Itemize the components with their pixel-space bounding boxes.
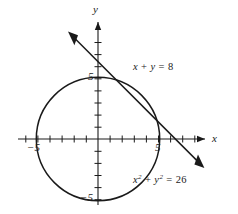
line-arrowhead-upper-left xyxy=(68,32,78,46)
circle-equation-label: x2 + y2 = 26 xyxy=(133,175,187,186)
circle-eq-y-exponent: 2 xyxy=(159,173,163,181)
line-eq-equals: = xyxy=(159,61,165,72)
x-axis-tick-label-positive-5: 5 xyxy=(155,142,161,153)
x-axis-tick-label-negative-5: −5 xyxy=(27,142,40,153)
line-eq-value: 8 xyxy=(168,61,174,72)
y-axis-tick-label-positive-5: 5 xyxy=(88,71,94,82)
x-axis-arrowhead xyxy=(197,136,205,142)
line-equation-label: x + y = 8 xyxy=(133,62,174,73)
y-axis-tick-label-negative-5: −5 xyxy=(80,192,93,203)
y-axis-label: y xyxy=(93,4,98,15)
line-eq-y: y xyxy=(150,61,155,72)
circle-eq-equals: = xyxy=(166,174,172,185)
math-figure: y x −5 5 5 −5 x + y = 8 x2 + y2 = 26 xyxy=(0,0,238,214)
circle-eq-value: 26 xyxy=(176,174,187,185)
line-eq-plus: + xyxy=(141,61,147,72)
circle-eq-plus: + xyxy=(145,174,151,185)
graph-canvas xyxy=(0,0,238,214)
x-axis-label: x xyxy=(212,133,217,144)
line-eq-x: x xyxy=(133,61,138,72)
line-curve xyxy=(71,35,201,165)
circle-eq-x-exponent: 2 xyxy=(138,173,142,181)
line-arrowhead-lower-right xyxy=(194,154,204,168)
y-axis-arrowhead xyxy=(95,22,101,30)
